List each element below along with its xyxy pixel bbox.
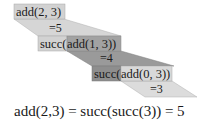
call-label-3: add(0, 3)) (121, 67, 170, 81)
result-label-2: =4 (100, 51, 113, 65)
equation: add(2,3) = succ(succ(3)) = 5 (14, 103, 185, 120)
result-band-1 (14, 19, 121, 36)
call-prefix-3: succ( (94, 67, 120, 81)
result-band-2 (67, 51, 174, 66)
call-label-2: add(1, 3)) (67, 37, 116, 51)
result-label-1: =5 (49, 21, 62, 35)
call-label-1: add(2, 3) (16, 5, 61, 19)
result-label-3: =3 (150, 82, 163, 96)
recursion-diagram: add(2, 3) =5 succ( add(1, 3)) =4 succ( a… (0, 0, 205, 124)
call-prefix-2: succ( (40, 37, 66, 51)
